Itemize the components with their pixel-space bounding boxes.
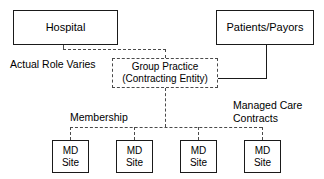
node-group-practice-label-line2: (Contracting Entity) — [122, 73, 208, 85]
edge-patients-payors-drop — [266, 45, 267, 78]
node-hospital-label: Hospital — [46, 21, 86, 34]
node-md-site-1-label-line1: MD — [63, 145, 79, 157]
edge-md-site-1-stub — [70, 127, 71, 140]
node-patients-payors[interactable]: Patients/Payors — [216, 10, 314, 45]
edge-group-practice-bottom-stub — [165, 88, 166, 127]
node-group-practice-label-line1: Group Practice — [132, 61, 199, 73]
node-md-site-3-label-line1: MD — [191, 145, 207, 157]
label-membership: Membership — [70, 111, 128, 124]
node-md-site-1[interactable]: MD Site — [52, 140, 89, 173]
label-membership-text: Membership — [70, 111, 128, 124]
label-actual-role-varies-text: Actual Role Varies — [10, 58, 96, 71]
node-group-practice[interactable]: Group Practice (Contracting Entity) — [112, 58, 218, 88]
node-md-site-4-label-line1: MD — [255, 145, 271, 157]
edge-md-site-bus — [70, 127, 262, 128]
node-md-site-2-label-line1: MD — [127, 145, 143, 157]
edge-md-site-2-stub — [134, 127, 135, 140]
edge-md-site-3-stub — [198, 127, 199, 140]
label-managed-care-contracts-line2: Contracts — [233, 112, 302, 125]
edge-md-site-4-stub — [262, 127, 263, 140]
node-md-site-2-label-line2: Site — [126, 157, 143, 169]
node-md-site-3-label-line2: Site — [190, 157, 207, 169]
diagram-canvas: Hospital Patients/Payors Actual Role Var… — [0, 0, 324, 179]
node-hospital[interactable]: Hospital — [13, 10, 118, 45]
label-actual-role-varies: Actual Role Varies — [10, 58, 96, 71]
node-md-site-1-label-line2: Site — [62, 157, 79, 169]
edge-group-practice-top-stub — [165, 49, 166, 58]
edge-hospital-to-group-practice — [63, 49, 166, 50]
node-patients-payors-label: Patients/Payors — [226, 21, 303, 34]
node-md-site-4-label-line2: Site — [254, 157, 271, 169]
node-md-site-4[interactable]: MD Site — [244, 140, 281, 173]
label-managed-care-contracts-line1: Managed Care — [233, 99, 302, 112]
node-md-site-3[interactable]: MD Site — [180, 140, 217, 173]
node-md-site-2[interactable]: MD Site — [116, 140, 153, 173]
label-managed-care-contracts: Managed Care Contracts — [233, 99, 302, 124]
edge-patients-payors-to-group-practice — [218, 78, 267, 79]
